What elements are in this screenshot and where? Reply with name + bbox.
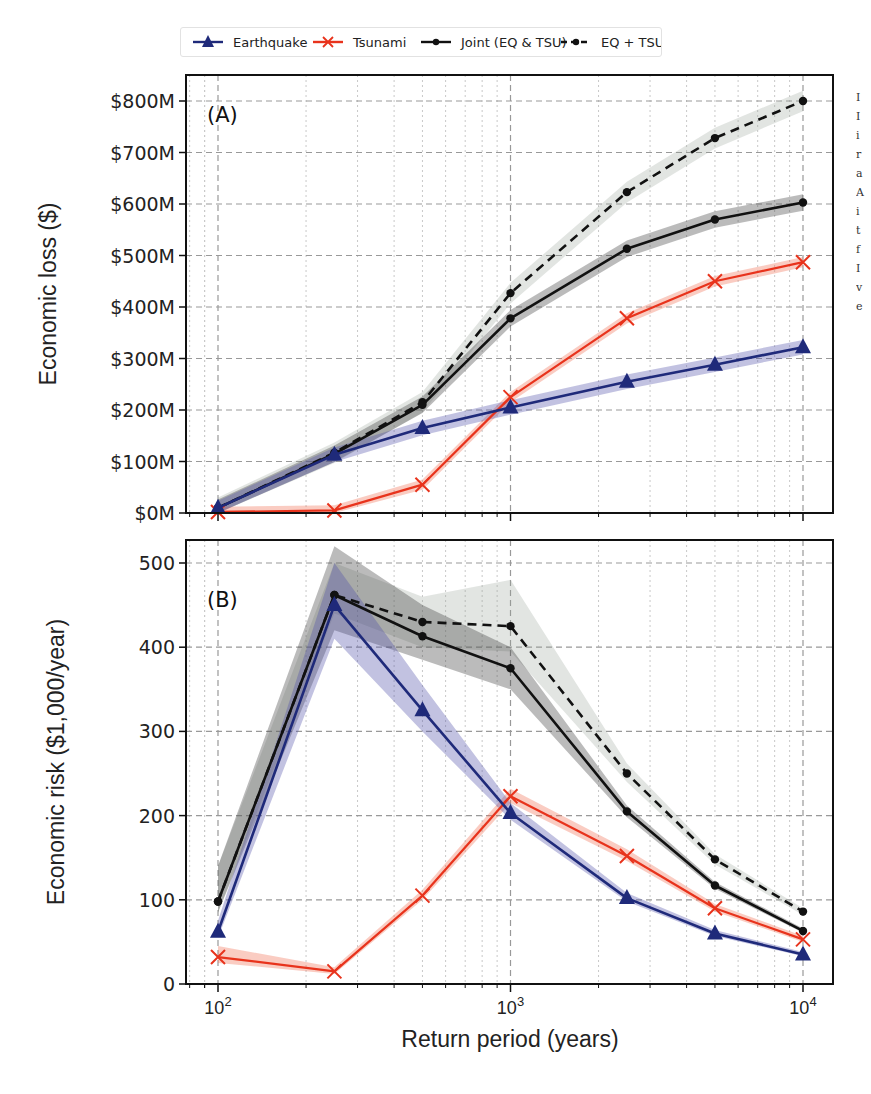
dot-icon bbox=[433, 39, 439, 45]
panel-label: (B) bbox=[207, 588, 238, 612]
dot-marker bbox=[799, 907, 807, 915]
legend-label: Joint (EQ & TSU) bbox=[460, 35, 567, 50]
y-axis-label-risk: Economic risk ($1,000/year) bbox=[43, 619, 69, 905]
caption-fragment: i bbox=[856, 126, 871, 145]
caption-fragment: t bbox=[856, 221, 871, 240]
y-tick-label: 100 bbox=[139, 889, 175, 911]
dot-marker bbox=[418, 618, 426, 626]
panel-label: (A) bbox=[207, 103, 238, 127]
legend-label: Earthquake bbox=[233, 35, 307, 50]
x-tick-label: 104 bbox=[789, 994, 816, 1018]
legend-item: Tsunami bbox=[313, 35, 406, 50]
dot-marker bbox=[623, 188, 631, 196]
y-tick-label: 500 bbox=[139, 552, 175, 574]
caption-fragment: f bbox=[856, 240, 871, 259]
dot-marker bbox=[799, 198, 807, 206]
y-tick-label: $500M bbox=[110, 245, 175, 267]
y-tick-label: $0M bbox=[134, 502, 175, 524]
cropped-caption-text: IIiraAitfIve bbox=[856, 88, 871, 316]
dot-marker bbox=[418, 401, 426, 409]
y-tick-label: $600M bbox=[110, 193, 175, 215]
caption-fragment: i bbox=[856, 202, 871, 221]
y-tick-label: $300M bbox=[110, 348, 175, 370]
panel-a-economic-loss: $0M$100M$200M$300M$400M$500M$600M$700M$8… bbox=[110, 75, 833, 524]
panel-b-economic-risk: 0100200300400500102103104(B) bbox=[139, 540, 833, 1018]
dot-marker bbox=[711, 215, 719, 223]
y-tick-label: 0 bbox=[163, 973, 175, 995]
dot-marker bbox=[506, 664, 514, 672]
dot-marker bbox=[711, 134, 719, 142]
figure: $0M$100M$200M$300M$400M$500M$600M$700M$8… bbox=[0, 0, 871, 1094]
triangle-marker bbox=[210, 923, 226, 938]
dot-marker bbox=[418, 632, 426, 640]
y-tick-label: $200M bbox=[110, 399, 175, 421]
legend-entries: EarthquakeTsunamiJoint (EQ & TSU)EQ + TS… bbox=[181, 28, 661, 56]
dot-marker bbox=[506, 314, 514, 322]
x-tick-label: 103 bbox=[497, 994, 524, 1018]
caption-fragment: I bbox=[856, 107, 871, 126]
dot-marker bbox=[711, 881, 719, 889]
y-tick-label: 400 bbox=[139, 636, 175, 658]
legend-label: Tsunami bbox=[352, 35, 406, 50]
dot-marker bbox=[799, 927, 807, 935]
dot-marker bbox=[623, 769, 631, 777]
caption-fragment: v bbox=[856, 278, 871, 297]
dot-marker bbox=[623, 245, 631, 253]
caption-fragment: I bbox=[856, 88, 871, 107]
dot-marker bbox=[506, 289, 514, 297]
caption-fragment: r bbox=[856, 145, 871, 164]
x-tick-label: 102 bbox=[204, 994, 231, 1018]
dot-marker bbox=[623, 807, 631, 815]
caption-fragment: A bbox=[856, 183, 871, 202]
y-tick-label: 200 bbox=[139, 805, 175, 827]
legend: EarthquakeTsunamiJoint (EQ & TSU)EQ + TS… bbox=[180, 27, 662, 57]
legend-item: Earthquake bbox=[193, 35, 307, 50]
legend-label: EQ + TSU bbox=[601, 35, 661, 50]
y-tick-label: $700M bbox=[110, 142, 175, 164]
dot-marker bbox=[711, 855, 719, 863]
dot-icon bbox=[573, 39, 579, 45]
dot-marker bbox=[506, 622, 514, 630]
caption-fragment: I bbox=[856, 259, 871, 278]
x-axis-label: Return period (years) bbox=[401, 1026, 618, 1052]
dot-marker bbox=[799, 97, 807, 105]
legend-item: EQ + TSU bbox=[561, 35, 661, 50]
y-tick-label: $400M bbox=[110, 296, 175, 318]
y-tick-label: $800M bbox=[110, 90, 175, 112]
dot-marker bbox=[214, 897, 222, 905]
y-axis-label-loss: Economic loss ($) bbox=[35, 203, 61, 386]
caption-fragment: e bbox=[856, 297, 871, 316]
caption-fragment: a bbox=[856, 164, 871, 183]
y-tick-label: 300 bbox=[139, 720, 175, 742]
legend-item: Joint (EQ & TSU) bbox=[421, 35, 567, 50]
y-tick-label: $100M bbox=[110, 451, 175, 473]
